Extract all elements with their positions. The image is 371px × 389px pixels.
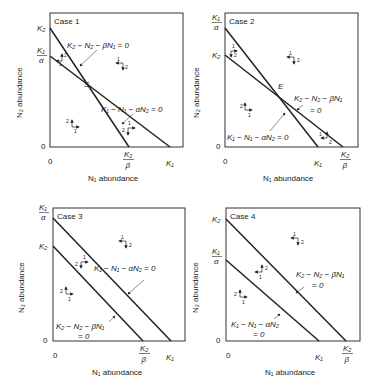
x-axis-label: N₁ abundance — [88, 174, 139, 183]
x-tick-k1: K₁ — [314, 159, 322, 168]
svg-text:2: 2 — [66, 118, 69, 124]
stable-point-label: S — [84, 80, 90, 89]
leader-arrow — [297, 105, 303, 110]
x-tick-beta: β — [342, 161, 348, 170]
panel-case-3: Case 3 K₁ α K₂ 0 0 K₂ β K₁ N₁ abundance … — [17, 203, 185, 377]
svg-text:2: 2 — [60, 288, 63, 294]
case-label: Case 4 — [230, 212, 256, 221]
plot-frame — [225, 13, 358, 147]
y-tick-alpha: α — [214, 257, 219, 266]
vector-glyph: 1 2 — [56, 52, 67, 67]
leader-arrow — [109, 316, 115, 322]
x-origin: 0 — [226, 351, 231, 360]
lotka-volterra-isocline-diagram: Case 1 K₂ K₁ α 0 0 K₂ β K₁ N₁ abundance … — [0, 0, 371, 389]
svg-text:1: 1 — [232, 43, 235, 49]
svg-text:2: 2 — [125, 64, 128, 70]
vector-glyph: 1 2 — [119, 234, 132, 248]
y-tick-k2: K₂ — [212, 51, 220, 60]
y-axis-label: N₂ abundance — [192, 67, 201, 118]
vector-glyph: 1 2 — [255, 265, 268, 280]
svg-text:1: 1 — [242, 299, 245, 305]
svg-text:1: 1 — [319, 131, 322, 137]
y-origin: 0 — [216, 142, 221, 151]
panel-case-4: Case 4 K₂ K₁ α 0 0 K₁ K₂ β N₁ abundance … — [191, 208, 360, 377]
y-tick-k1-numerator: K₁ — [37, 46, 45, 55]
case-label: Case 1 — [54, 17, 80, 26]
vector-glyph: 1 2 — [66, 118, 79, 134]
svg-text:2: 2 — [240, 103, 243, 109]
svg-text:1: 1 — [293, 231, 296, 237]
x-tick-k1: K₁ — [166, 159, 174, 168]
isocline-2-equation: K₂ − N₂ − βN₁ — [56, 322, 105, 331]
x-origin: 0 — [48, 157, 53, 166]
svg-text:2: 2 — [129, 242, 132, 248]
svg-text:2: 2 — [297, 57, 300, 63]
isocline-1-equation: K₁ − N₁ − αN₂ = 0 — [101, 105, 163, 114]
x-axis-label: N₁ abundance — [263, 174, 314, 183]
leader-arrow — [296, 287, 304, 293]
y-origin: 0 — [41, 142, 46, 151]
vector-glyph: 1 2 — [287, 50, 300, 64]
vector-glyph: 1 2 — [75, 254, 88, 268]
panel-case-2: Case 2 K₁ α K₂ 0 0 K₁ K₂ β N₁ abundance … — [192, 13, 358, 183]
x-tick-beta: β — [344, 355, 350, 364]
vector-glyph: 1 2 — [291, 231, 304, 245]
isocline-2-equation: K₂ − N₂ − βN₁ — [296, 270, 345, 279]
leader-arrow — [274, 314, 280, 319]
vector-glyph: 1 2 — [240, 103, 252, 118]
y-tick-k2: K₂ — [39, 242, 47, 251]
stable-point-label: E — [278, 82, 284, 91]
svg-text:1: 1 — [83, 254, 86, 260]
x-tick-k2-numerator: K₂ — [343, 344, 351, 353]
leader-arrow — [80, 50, 97, 66]
x-tick-k1: K₁ — [166, 353, 174, 362]
svg-text:1: 1 — [117, 56, 120, 62]
svg-text:1: 1 — [259, 274, 262, 280]
isocline-2-equation-rhs: = 0 — [310, 106, 322, 115]
x-tick-beta: β — [125, 161, 131, 170]
x-tick-beta: β — [141, 355, 147, 364]
svg-text:2: 2 — [265, 265, 268, 271]
svg-text:2: 2 — [122, 127, 125, 133]
y-tick-k1-numerator: K₁ — [212, 13, 220, 22]
isocline-1-equation: K₁ − N₁ − αN₂ — [231, 320, 279, 329]
isocline-2-equation: K₂ − N₂ − βN₁ — [294, 94, 343, 103]
x-tick-k1: K₁ — [315, 353, 323, 362]
y-tick-k2: K₂ — [37, 24, 45, 33]
isocline-1-equation: K₁ − N₁ − αN₂ = 0 — [227, 133, 289, 142]
vector-glyph: 1 2 — [234, 290, 247, 305]
isocline-2-equation-rhs: = 0 — [78, 332, 90, 341]
x-axis-label: N₁ abundance — [92, 368, 143, 377]
y-tick-alpha: α — [214, 23, 219, 32]
leader-arrow — [128, 280, 144, 294]
y-tick-k2: K₂ — [212, 215, 220, 224]
y-origin: 0 — [216, 336, 221, 345]
y-tick-k1-numerator: K₁ — [39, 203, 47, 212]
y-tick-k1-numerator: K₁ — [212, 247, 220, 256]
isocline-2-equation: K₂ − N₂ − βN₁ = 0 — [67, 41, 129, 50]
x-tick-k2-numerator: K₂ — [124, 150, 132, 159]
y-origin: 0 — [43, 336, 48, 345]
case-label: Case 2 — [229, 17, 255, 26]
y-tick-alpha: α — [41, 213, 46, 222]
isocline-2-equation-rhs: = 0 — [312, 281, 324, 290]
svg-text:1: 1 — [121, 234, 124, 240]
vector-glyph: 1 2 — [116, 56, 128, 70]
svg-text:2: 2 — [234, 291, 237, 297]
x-axis-label: N₁ abundance — [265, 368, 316, 377]
isocline-1-equation-rhs: = 0 — [253, 330, 265, 339]
y-axis-label: N₂ abundance — [15, 67, 24, 118]
x-origin: 0 — [53, 351, 58, 360]
y-axis-label: N₂ abundance — [17, 262, 26, 313]
svg-text:1: 1 — [289, 50, 292, 56]
y-axis-label: N₂ abundance — [191, 262, 200, 313]
case-label: Case 3 — [57, 212, 83, 221]
svg-text:2: 2 — [75, 261, 78, 267]
svg-text:1: 1 — [74, 128, 77, 134]
isocline-species-1 — [50, 56, 170, 147]
y-tick-alpha: α — [39, 56, 44, 65]
svg-text:1: 1 — [128, 120, 131, 126]
panel-case-1: Case 1 K₂ K₁ α 0 0 K₂ β K₁ N₁ abundance … — [15, 13, 183, 183]
x-tick-k2-numerator: K₂ — [341, 150, 349, 159]
svg-text:2: 2 — [329, 139, 332, 145]
